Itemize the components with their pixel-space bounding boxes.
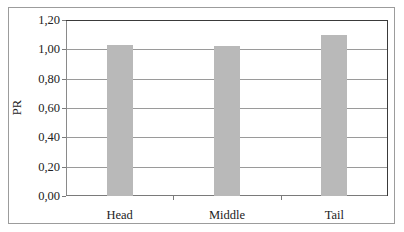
plot-border-top (66, 20, 388, 21)
x-tick-label: Head (80, 208, 160, 222)
y-axis (66, 20, 67, 196)
y-tick-label: 0,20 (20, 160, 60, 174)
y-tick-label: 0,80 (20, 72, 60, 86)
bar-tail (321, 35, 347, 196)
plot-border-right (387, 20, 388, 196)
plot-area (66, 20, 388, 196)
x-tick-label: Tail (294, 208, 374, 222)
y-tick-mark (62, 196, 66, 197)
y-tick-label: 1,20 (20, 13, 60, 27)
y-tick-label: 0,60 (20, 101, 60, 115)
x-tick-label: Middle (187, 208, 267, 222)
x-tick-mark (281, 196, 282, 200)
bar-head (107, 45, 133, 196)
bar-middle (214, 46, 240, 196)
y-tick-label: 1,00 (20, 42, 60, 56)
y-tick-label: 0,40 (20, 130, 60, 144)
y-tick-label: 0,00 (20, 189, 60, 203)
x-tick-mark (173, 196, 174, 200)
